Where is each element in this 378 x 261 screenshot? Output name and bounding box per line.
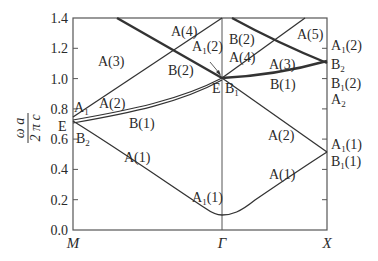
ytick-0: 0.0 [51, 223, 69, 238]
svg-text:E: E [58, 119, 67, 134]
ytick-1.4: 1.4 [51, 11, 69, 26]
ytick-0.8: 0.8 [51, 102, 69, 117]
svg-text:A(1): A(1) [269, 167, 296, 183]
band-a2-mg [73, 78, 222, 120]
svg-text:A1: A1 [74, 100, 89, 117]
svg-text:A(4): A(4) [171, 24, 198, 40]
svg-text:B1(2): B1(2) [331, 76, 362, 93]
svg-text:B(1): B(1) [270, 77, 296, 93]
band-a1-gx [222, 152, 327, 215]
svg-text:A(3): A(3) [269, 57, 296, 73]
svg-text:A2: A2 [331, 92, 346, 109]
svg-text:E: E [212, 81, 221, 96]
svg-text:A1(2): A1(2) [331, 38, 362, 55]
y-axis-label: ω a 2 π c [12, 113, 43, 143]
band-structure-chart: 0.0 0.2 0.4 0.6 0.8 1.0 1.2 1.4 M Γ X ω … [0, 0, 378, 261]
svg-text:B(2): B(2) [168, 63, 194, 79]
xtick-m: M [66, 235, 81, 251]
svg-text:A(3): A(3) [98, 54, 125, 70]
ytick-0.4: 0.4 [51, 162, 69, 177]
ytick-0.6: 0.6 [51, 132, 69, 147]
svg-text:2 π c: 2 π c [28, 114, 43, 142]
svg-text:A(4): A(4) [229, 50, 256, 66]
svg-text:A(1): A(1) [124, 150, 151, 166]
svg-text:A1(2): A1(2) [192, 39, 223, 56]
band-a3-a4-mg [73, 18, 222, 117]
x-tick-labels: M Γ X [66, 235, 333, 251]
xtick-x: X [321, 235, 332, 251]
ytick-0.2: 0.2 [51, 193, 69, 208]
svg-text:B1(1): B1(1) [331, 154, 362, 171]
ytick-1.0: 1.0 [51, 72, 69, 87]
band-labels: A1 E B2 A(2) B(1) A(3) A(4) B(2) A(1) A1… [58, 24, 362, 207]
svg-text:B1: B1 [225, 81, 239, 98]
svg-text:A(2): A(2) [268, 128, 295, 144]
xtick-gamma: Γ [217, 235, 228, 251]
svg-text:A(5): A(5) [297, 27, 324, 43]
svg-text:ω a: ω a [12, 118, 27, 138]
svg-text:A1(1): A1(1) [331, 137, 362, 154]
svg-text:A(2): A(2) [99, 96, 126, 112]
ytick-1.2: 1.2 [51, 41, 69, 56]
svg-text:B2: B2 [76, 131, 90, 148]
svg-text:A1(1): A1(1) [192, 190, 223, 207]
svg-text:B(2): B(2) [229, 32, 255, 48]
svg-text:B(1): B(1) [129, 116, 155, 132]
svg-text:B2: B2 [331, 57, 345, 74]
